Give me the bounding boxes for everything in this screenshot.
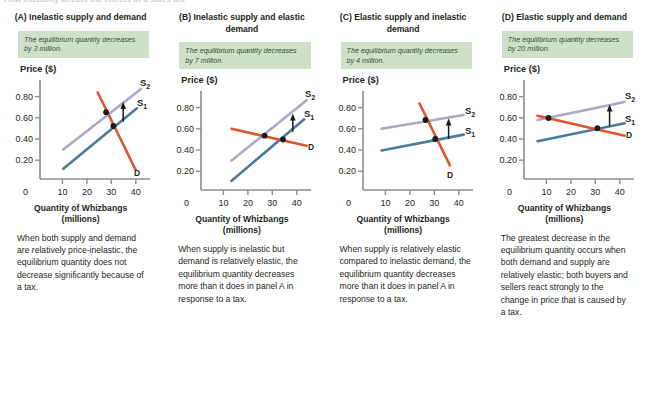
- panel-d-supply1-label: S1: [625, 113, 635, 126]
- panel-b-demand-label: D: [308, 142, 314, 152]
- panel-c-title: (C) Elastic supply and inelastic demand: [333, 12, 474, 35]
- svg-text:30: 30: [429, 198, 439, 208]
- panel-a-x-ticklabels: 1020 3040: [57, 187, 140, 197]
- panel-b-y-ticklabels: 0.800.60 0.400.20 0: [177, 103, 195, 208]
- svg-text:30: 30: [268, 198, 278, 208]
- panel-d-equilibrium-before-tax: [594, 125, 600, 131]
- panel-c-plot: 0.800.60 0.400.20 0 1020 3040: [327, 86, 480, 214]
- panel-b-title: (B) Inelastic supply and elastic demand: [171, 12, 312, 35]
- svg-text:40: 40: [615, 187, 625, 197]
- panel-c-x-axis-title: Quantity of Whizbangs (millions): [327, 214, 480, 236]
- panel-a-supply2-line: [63, 89, 140, 149]
- panel-d-shift-arrow: [607, 104, 613, 126]
- panel-b-x-ticklabels: 1020 3040: [219, 198, 302, 208]
- svg-text:0.80: 0.80: [177, 103, 195, 113]
- panel-c: (C) Elastic supply and inelastic demand …: [323, 12, 484, 398]
- svg-text:0: 0: [184, 198, 189, 208]
- svg-text:20: 20: [404, 198, 414, 208]
- panel-a-svg: 0.800.60 0.400.20 0 1020 3040: [4, 75, 157, 203]
- panel-d-x-ticklabels: 1020 3040: [541, 187, 624, 197]
- svg-text:0.20: 0.20: [338, 166, 356, 176]
- svg-text:0.80: 0.80: [499, 91, 517, 101]
- svg-text:10: 10: [541, 187, 551, 197]
- panel-c-supply2-line: [381, 115, 463, 129]
- panel-a-title: (A) Inelastic supply and demand: [10, 12, 151, 24]
- panel-a-plot: 0.800.60 0.400.20 0 1020 3040: [4, 75, 157, 203]
- svg-text:0.20: 0.20: [177, 166, 195, 176]
- svg-text:0: 0: [507, 187, 512, 197]
- elasticity-tax-figure: How elasticity affects the effects of a …: [0, 0, 645, 398]
- panel-d-y-ticklabels: 0.800.60 0.400.20 0: [499, 91, 517, 196]
- svg-text:10: 10: [219, 198, 229, 208]
- svg-text:0.60: 0.60: [338, 124, 356, 134]
- panel-a-equilibrium-before-tax: [111, 123, 117, 129]
- panel-c-supply1-label: S1: [465, 125, 475, 138]
- svg-text:0.40: 0.40: [499, 134, 517, 144]
- panel-d-svg: 0.800.60 0.400.20 0 1020 3040: [488, 75, 641, 203]
- panel-d-description: The greatest decrease in the equilibrium…: [501, 232, 633, 319]
- panel-d-plot: 0.800.60 0.400.20 0 1020 3040: [488, 75, 641, 203]
- svg-text:0: 0: [345, 198, 350, 208]
- panel-c-supply1-line: [381, 135, 463, 151]
- svg-text:0.60: 0.60: [15, 113, 33, 123]
- panel-c-y-axis-title: Price ($): [343, 75, 480, 85]
- panel-d-demand-label: D: [626, 130, 632, 140]
- panel-d-x-axis-title: Quantity of Whizbangs (millions): [488, 203, 641, 225]
- svg-text:20: 20: [82, 187, 92, 197]
- svg-text:40: 40: [131, 187, 141, 197]
- svg-text:30: 30: [590, 187, 600, 197]
- panel-a-supply2-label: S2: [140, 77, 150, 90]
- svg-text:40: 40: [453, 198, 463, 208]
- panel-c-svg: 0.800.60 0.400.20 0 1020 3040: [327, 86, 480, 214]
- panel-row: (A) Inelastic supply and demand The equi…: [0, 12, 645, 398]
- panel-b-curve-labels: S2 S1 D: [304, 88, 315, 152]
- panel-b: (B) Inelastic supply and elastic demand …: [161, 12, 322, 398]
- panel-b-callout: The equilibrium quantity decreases by 7 …: [179, 42, 310, 69]
- panel-c-supply2-label: S2: [465, 105, 475, 118]
- svg-text:0.40: 0.40: [177, 145, 195, 155]
- panel-b-description: When supply is inelastic but demand is r…: [178, 243, 310, 305]
- panel-c-callout: The equilibrium quantity decreases by 4 …: [341, 42, 472, 69]
- panel-d-y-axis-title: Price ($): [504, 64, 641, 74]
- panel-c-demand-line: [419, 103, 450, 165]
- panel-b-y-axis-title: Price ($): [181, 75, 318, 85]
- panel-a-equilibrium-after-tax: [103, 109, 109, 115]
- panel-a: (A) Inelastic supply and demand The equi…: [0, 12, 161, 398]
- svg-text:0.20: 0.20: [15, 155, 33, 165]
- panel-c-y-ticklabels: 0.800.60 0.400.20 0: [338, 103, 356, 208]
- panel-d-supply2-label: S2: [625, 90, 635, 103]
- svg-text:0.80: 0.80: [15, 91, 33, 101]
- svg-text:20: 20: [566, 187, 576, 197]
- panel-b-supply2-label: S2: [305, 88, 315, 101]
- panel-c-demand-label: D: [447, 170, 453, 180]
- panel-d-title: (D) Elastic supply and demand: [494, 12, 635, 24]
- panel-d: (D) Elastic supply and demand The equili…: [484, 12, 645, 398]
- panel-b-plot: 0.800.60 0.400.20 0 1020 3040: [165, 86, 318, 214]
- panel-a-supply1-line: [63, 108, 137, 168]
- svg-text:0.60: 0.60: [177, 124, 195, 134]
- svg-text:20: 20: [243, 198, 253, 208]
- panel-c-description: When supply is relatively elastic compar…: [340, 243, 472, 305]
- svg-text:0.40: 0.40: [15, 134, 33, 144]
- panel-b-equilibrium-after-tax: [262, 133, 268, 139]
- panel-a-y-axis-title: Price ($): [20, 64, 157, 74]
- figure-top-caption: How elasticity affects the effects of a …: [4, 0, 645, 4]
- panel-c-equilibrium-before-tax: [432, 136, 438, 142]
- svg-text:30: 30: [106, 187, 116, 197]
- svg-text:0.20: 0.20: [499, 155, 517, 165]
- panel-d-curve-labels: S2 S1 D: [625, 90, 635, 140]
- svg-text:40: 40: [292, 198, 302, 208]
- svg-text:10: 10: [57, 187, 67, 197]
- panel-d-callout: The equilibrium quantity decreases by 20…: [502, 31, 633, 58]
- panel-a-supply1-label: S1: [137, 97, 147, 110]
- panel-c-equilibrium-after-tax: [422, 117, 428, 123]
- panel-d-equilibrium-after-tax: [545, 115, 551, 121]
- panel-c-x-ticklabels: 1020 3040: [380, 198, 463, 208]
- panel-a-y-ticklabels: 0.800.60 0.400.20 0: [15, 91, 33, 196]
- panel-b-svg: 0.800.60 0.400.20 0 1020 3040: [165, 86, 318, 214]
- panel-b-equilibrium-before-tax: [280, 137, 286, 143]
- panel-a-demand-line: [98, 92, 136, 170]
- figure-top-caption-strip: How elasticity affects the effects of a …: [0, 0, 645, 10]
- panel-a-callout: The equilibrium quantity decreases by 3 …: [18, 31, 149, 58]
- svg-text:10: 10: [380, 198, 390, 208]
